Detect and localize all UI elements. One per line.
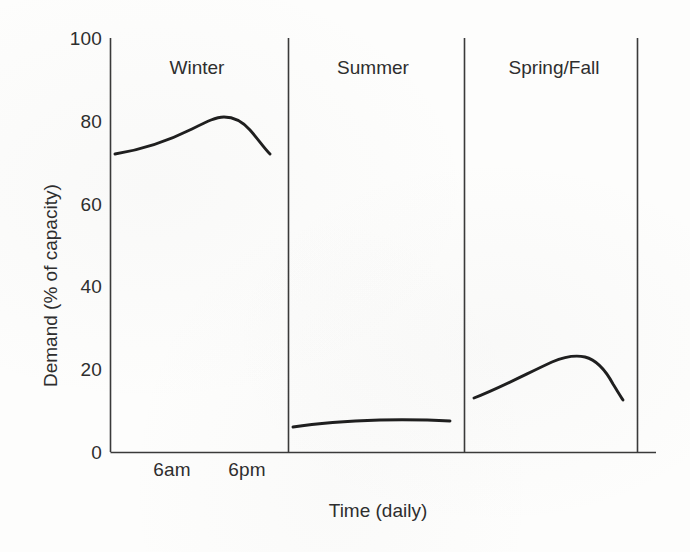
y-tick-label-80: 80 (48, 111, 102, 133)
panel-label-winter: Winter (137, 57, 257, 79)
plot-area (0, 0, 690, 552)
x-axis-title: Time (daily) (288, 500, 468, 522)
y-tick-label-0: 0 (48, 442, 102, 464)
panel-label-summer: Summer (313, 57, 433, 79)
curve-summer (293, 420, 450, 427)
y-tick-label-100: 100 (48, 28, 102, 50)
curve-winter (115, 117, 270, 154)
x-tick-label-6am: 6am (142, 459, 202, 481)
chart-figure: 100 80 60 40 20 0 6am 6pm Winter Summer … (0, 0, 690, 552)
x-tick-label-6pm: 6pm (217, 459, 277, 481)
panel-label-spring-fall: Spring/Fall (489, 57, 619, 79)
y-axis-title: Demand (% of capacity) (40, 184, 62, 387)
curve-spring-fall (474, 356, 623, 400)
